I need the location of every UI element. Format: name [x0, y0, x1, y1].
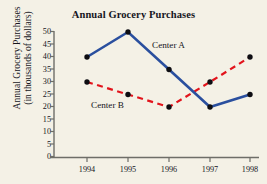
series-markers-center-a	[84, 29, 252, 109]
series-line-center-b	[87, 57, 250, 107]
chart-container: Annual Grocery Purchases Annual Grocery …	[0, 0, 267, 184]
plot-area	[0, 0, 267, 184]
